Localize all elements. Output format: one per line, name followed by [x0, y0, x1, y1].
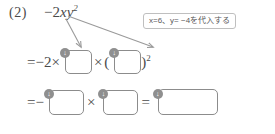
- equation-line-2: =−2× ↓ × ( ↓ )2: [27, 50, 151, 74]
- substitution-hint-callout: x=6、y= −4を代入する: [143, 13, 236, 29]
- answer-box-final[interactable]: [158, 89, 218, 115]
- line3-lead-operator: =−: [27, 94, 44, 111]
- worksheet-canvas: (2) −2xy2 x=6、y= −4を代入する =−2× ↓ × ( ↓ )2…: [0, 0, 275, 134]
- wavy-underline-icon: [206, 119, 268, 125]
- line2-lead-operator: =−2×: [27, 54, 60, 71]
- arrow-down-right-icon: [68, 16, 153, 47]
- step-marker-5: ↓: [153, 89, 163, 99]
- line2-open-paren: (: [104, 54, 109, 71]
- answer-box-line3-2[interactable]: [103, 90, 138, 115]
- equation-line-3: =− ↓ × ↓ = ↓: [27, 89, 218, 115]
- line2-exponent: 2: [146, 53, 151, 63]
- arrow-down-left-icon: [66, 19, 81, 47]
- line2-close-paren: )2: [141, 54, 151, 71]
- problem-number: (2): [9, 6, 27, 20]
- original-expression: −2xy2: [44, 5, 78, 20]
- expression-exponent: 2: [73, 3, 78, 13]
- line3-equals-operator: =: [141, 94, 149, 111]
- line3-times-operator: ×: [87, 94, 95, 111]
- step-marker-1: ↓: [60, 48, 70, 58]
- answer-box-line3-1[interactable]: [49, 90, 84, 115]
- step-marker-3: ↓: [44, 89, 54, 99]
- line2-times-operator: ×: [94, 54, 102, 71]
- expression-coefficient: −2: [44, 4, 60, 20]
- expression-variables: xy: [60, 4, 73, 20]
